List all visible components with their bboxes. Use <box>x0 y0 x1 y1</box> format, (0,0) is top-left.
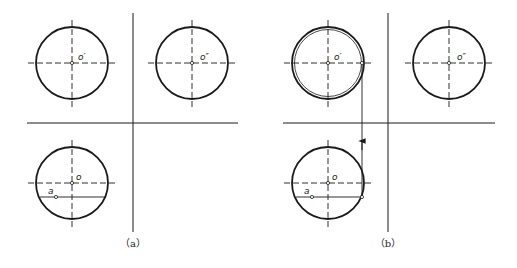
label-o: o <box>332 172 338 182</box>
label-a: a <box>304 186 310 196</box>
center-point <box>70 181 73 184</box>
top-view: o a <box>284 140 373 227</box>
projected-point <box>360 61 363 64</box>
front-view: o′ <box>284 20 373 107</box>
side-view: o″ <box>148 20 237 107</box>
projection-diagram: o′ o″ o a （a） <box>0 0 517 268</box>
label-o-double-prime: o″ <box>200 52 210 62</box>
panel-b: o′ o″ o a （b） <box>283 13 495 249</box>
label-o-prime: o′ <box>78 52 86 62</box>
caption-b: （b） <box>375 238 401 249</box>
label-o-double-prime: o″ <box>457 52 467 62</box>
center-point <box>326 181 329 184</box>
center-point <box>447 61 450 64</box>
point-a <box>310 195 313 198</box>
caption-a: （a） <box>120 238 146 249</box>
side-view: o″ <box>405 20 494 107</box>
front-view: o′ <box>28 20 116 107</box>
top-view: o a <box>28 140 116 227</box>
center-point <box>326 61 329 64</box>
panel-a: o′ o″ o a （a） <box>27 13 238 249</box>
label-a: a <box>48 186 54 196</box>
point-a <box>54 195 57 198</box>
label-o-prime: o′ <box>334 52 342 62</box>
center-point <box>70 61 73 64</box>
center-point <box>190 61 193 64</box>
label-o: o <box>76 172 82 182</box>
